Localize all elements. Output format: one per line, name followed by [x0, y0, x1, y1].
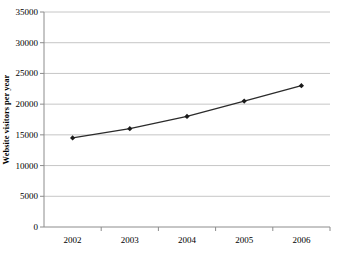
chart-background — [0, 0, 337, 257]
y-tick-label: 20000 — [16, 99, 39, 109]
y-axis-title: Website visitors per year — [1, 74, 11, 164]
y-tick-label: 10000 — [16, 161, 39, 171]
x-tick-label: 2005 — [235, 235, 254, 245]
chart-image: 0500010000150002000025000300003500020022… — [0, 0, 337, 257]
y-tick-label: 15000 — [16, 130, 39, 140]
y-tick-label: 0 — [34, 222, 39, 232]
y-tick-label: 25000 — [16, 68, 39, 78]
x-tick-label: 2002 — [64, 235, 82, 245]
y-tick-label: 35000 — [16, 7, 39, 17]
y-tick-label: 5000 — [20, 191, 39, 201]
line-chart: 0500010000150002000025000300003500020022… — [0, 0, 337, 257]
x-tick-label: 2006 — [292, 235, 311, 245]
x-tick-label: 2004 — [178, 235, 197, 245]
x-tick-label: 2003 — [121, 235, 140, 245]
y-tick-label: 30000 — [16, 38, 39, 48]
